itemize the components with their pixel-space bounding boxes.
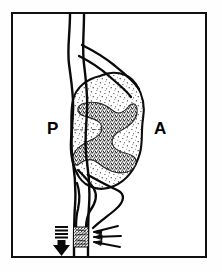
flow-direction-arrow [53,226,70,256]
stenosis-pointer-arrows [94,226,121,247]
pointer-arrow-1 [94,226,118,235]
kidney [71,73,144,189]
pointer-arrow-2 [94,235,121,239]
figure-root: P A [0,0,222,272]
anatomical-illustration [0,0,222,272]
stenotic-segment [74,227,88,247]
orientation-label-posterior: P [47,120,58,137]
orientation-label-anterior: A [154,120,166,137]
pointer-arrow-3 [94,241,120,247]
